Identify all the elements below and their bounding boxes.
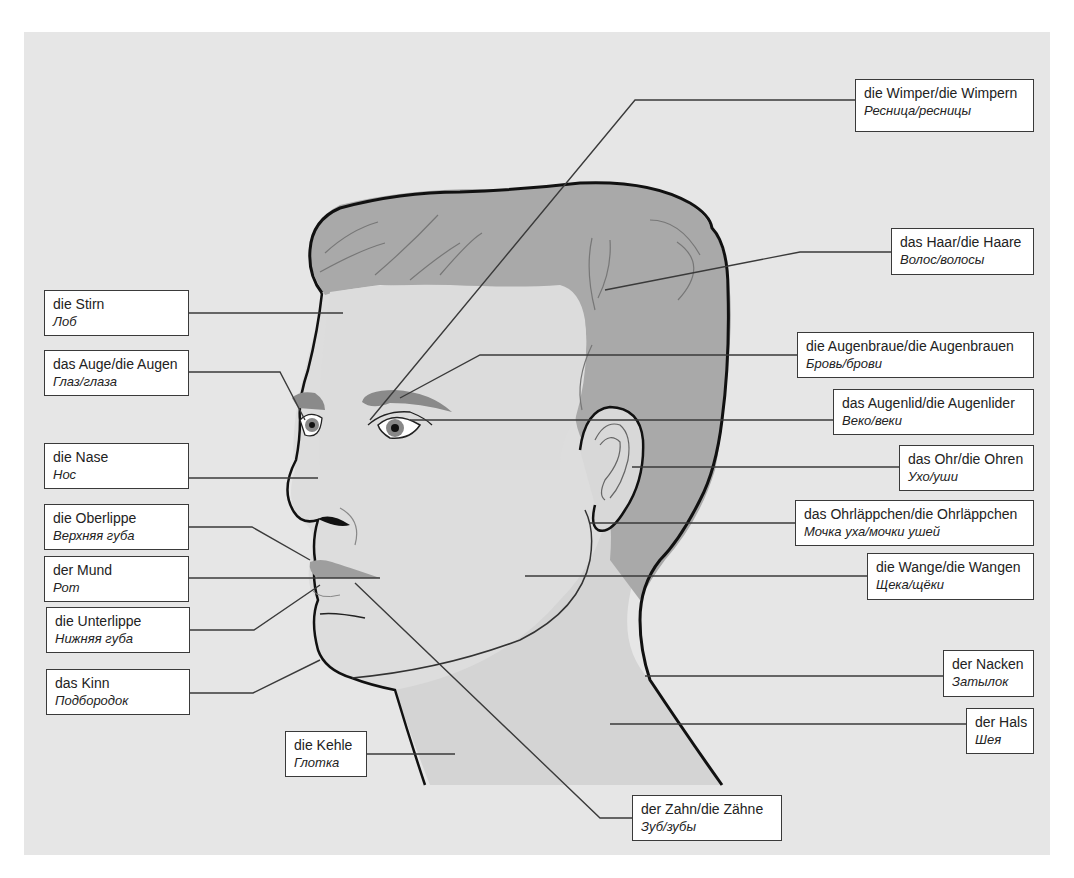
label-de: die Kehle [294,736,358,754]
label-ru: Ухо/уши [908,468,1025,486]
label-ru: Лоб [53,313,180,331]
label-kinn: das Kinn Подбородок [46,669,190,715]
label-mund: der Mund Рот [44,556,189,602]
label-ru: Затылок [952,673,1025,691]
label-stirn: die Stirn Лоб [44,290,189,336]
label-ru: Веко/веки [842,412,1025,430]
label-de: die Stirn [53,295,180,313]
label-wange: die Wange/die Wangen Щека/щёки [867,553,1034,600]
label-de: das Kinn [55,674,181,692]
label-ru: Верхняя губа [53,527,180,545]
label-nacken: der Nacken Затылок [943,650,1034,697]
label-ohrlaeppchen: das Ohrläppchen/die Ohrläppchen Мочка ух… [795,500,1034,546]
label-de: das Auge/die Augen [53,355,180,373]
label-kehle: die Kehle Глотка [285,731,367,777]
forehead-skin [319,285,587,470]
label-de: der Zahn/die Zähne [641,800,773,818]
label-ru: Мочка уха/мочки ушей [804,523,1025,541]
label-de: das Ohr/die Ohren [908,450,1025,468]
label-ru: Глаз/глаза [53,373,180,391]
label-ru: Рот [53,579,180,597]
label-de: die Augenbraue/die Augenbrauen [806,337,1025,355]
label-de: der Mund [53,561,180,579]
label-ru: Глотка [294,754,358,772]
label-oberlippe: die Oberlippe Верхняя губа [44,504,189,550]
label-de: der Nacken [952,655,1025,673]
label-ru: Подбородок [55,692,181,710]
label-ru: Ресница/ресницы [864,102,1025,120]
label-ru: Зуб/зубы [641,818,773,836]
label-de: das Haar/die Haare [900,233,1025,251]
label-ohr: das Ohr/die Ohren Ухо/уши [899,445,1034,491]
label-haar: das Haar/die Haare Волос/волосы [891,228,1034,275]
label-de: das Ohrläppchen/die Ohrläppchen [804,505,1025,523]
label-wimper: die Wimper/die Wimpern Ресница/ресницы [855,79,1034,132]
label-hals: der Hals Шея [966,708,1034,754]
label-zahn: der Zahn/die Zähne Зуб/зубы [632,795,782,841]
label-unterlippe: die Unterlippe Нижняя губа [46,607,190,653]
label-de: die Wange/die Wangen [876,558,1025,576]
label-auge: das Auge/die Augen Глаз/глаза [44,350,189,396]
label-ru: Щека/щёки [876,576,1025,594]
label-de: das Augenlid/die Augenlider [842,394,1025,412]
label-de: die Oberlippe [53,509,180,527]
label-augenlid: das Augenlid/die Augenlider Веко/веки [833,389,1034,435]
label-ru: Волос/волосы [900,251,1025,269]
label-de: die Nase [53,448,180,466]
label-de: die Wimper/die Wimpern [864,84,1025,102]
label-nase: die Nase Нос [44,443,189,489]
label-ru: Шея [975,731,1025,749]
label-de: der Hals [975,713,1025,731]
label-ru: Нижняя губа [55,630,181,648]
label-ru: Нос [53,466,180,484]
label-de: die Unterlippe [55,612,181,630]
label-ru: Бровь/брови [806,355,1025,373]
label-augenbraue: die Augenbraue/die Augenbrauen Бровь/бро… [797,332,1034,378]
